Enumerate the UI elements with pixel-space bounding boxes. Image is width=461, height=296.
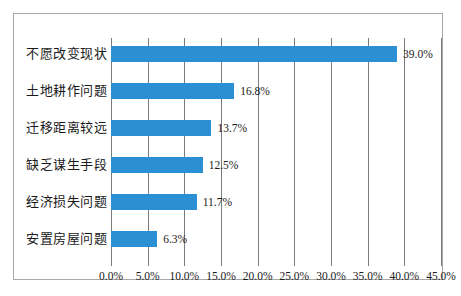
bar	[111, 120, 211, 136]
x-axis-tick-label: 45.0%	[411, 270, 461, 282]
category-label: 经济损失问题	[26, 194, 107, 210]
category-label: 不愿改变现状	[26, 46, 107, 62]
bar	[111, 231, 157, 247]
bar-row: 迁移距离较远13.7%	[111, 120, 441, 136]
bar	[111, 83, 234, 99]
bar-row: 不愿改变现状39.0%	[111, 46, 441, 62]
chart-frame: 0.0%5.0%10.0%15.0%20.0%25.0%30.0%35.0%40…	[13, 13, 443, 280]
category-label: 迁移距离较远	[26, 120, 107, 136]
category-label: 安置房屋问题	[26, 231, 107, 247]
bar-value-label: 13.7%	[217, 120, 247, 136]
bar-row: 土地耕作问题16.8%	[111, 83, 441, 99]
bar	[111, 46, 397, 62]
bar-value-label: 11.7%	[203, 194, 232, 210]
bar-row: 安置房屋问题6.3%	[111, 231, 441, 247]
bar-value-label: 39.0%	[403, 46, 433, 62]
category-label: 缺乏谋生手段	[26, 157, 107, 173]
bar-row: 经济损失问题11.7%	[111, 194, 441, 210]
bar-value-label: 12.5%	[209, 157, 239, 173]
plot-area: 0.0%5.0%10.0%15.0%20.0%25.0%30.0%35.0%40…	[111, 38, 441, 260]
bar	[111, 194, 197, 210]
bar-row: 缺乏谋生手段12.5%	[111, 157, 441, 173]
bar	[111, 157, 203, 173]
bar-value-label: 16.8%	[240, 83, 270, 99]
x-gridline	[441, 38, 442, 266]
category-label: 土地耕作问题	[26, 83, 107, 99]
bar-value-label: 6.3%	[163, 231, 187, 247]
